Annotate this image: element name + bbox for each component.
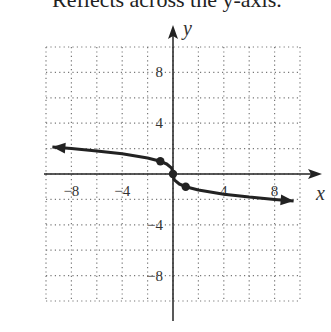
data-point <box>169 170 177 178</box>
data-point <box>182 183 190 191</box>
curve-arrow-icon <box>280 194 293 205</box>
y-tick-label: −8 <box>147 268 163 284</box>
x-tick-label: 8 <box>271 183 279 199</box>
x-tick-label: −4 <box>114 183 130 199</box>
x-axis-label: x <box>315 182 325 204</box>
y-tick-label: 8 <box>156 64 164 80</box>
graph: xy−8−44884−4−8 <box>0 0 331 332</box>
data-point <box>156 157 164 165</box>
y-tick-label: 4 <box>156 115 164 131</box>
x-tick-label: −8 <box>63 183 79 199</box>
y-axis-label: y <box>181 17 192 40</box>
y-tick-label: −4 <box>147 217 163 233</box>
curve-arrow-icon <box>52 143 65 154</box>
x-tick-label: 4 <box>220 183 228 199</box>
